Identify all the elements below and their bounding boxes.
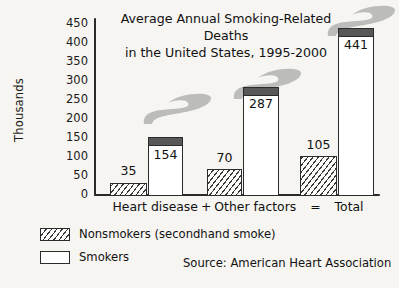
bar-cap: [148, 137, 184, 146]
bar-value-154: 154: [148, 148, 183, 161]
legend-label-nonsmokers: Nonsmokers (secondhand smoke): [79, 227, 276, 241]
bar-nonsmokers-total[interactable]: [300, 156, 337, 196]
bar-value-105: 105: [300, 138, 337, 151]
x-axis-label: Heart disease+Other factors=Total: [94, 199, 382, 214]
legend-swatch-white-icon: [40, 251, 70, 264]
bar-value-441: 441: [338, 38, 374, 51]
legend-label-smokers: Smokers: [79, 250, 129, 264]
bar-nonsmokers-heart-disease[interactable]: [110, 183, 147, 196]
bar-cap: [338, 28, 375, 37]
chart-source: Source: American Heart Association: [183, 256, 391, 270]
bar-value-287: 287: [243, 97, 279, 110]
legend-swatch-hatched-icon: [40, 228, 70, 241]
x-axis-equals-operator: =: [310, 199, 320, 214]
bars-layer: 35 154 70 287 105 441: [0, 0, 388, 196]
bar-cap: [243, 87, 280, 96]
bar-nonsmokers-other-factors[interactable]: [207, 169, 242, 196]
x-axis-part-total: Total: [335, 199, 364, 214]
legend-item-nonsmokers[interactable]: Nonsmokers (secondhand smoke): [40, 225, 276, 243]
bar-smokers-total[interactable]: [338, 28, 374, 196]
bar-value-35: 35: [110, 164, 147, 177]
bar-value-70: 70: [207, 151, 242, 164]
x-axis-part-other-factors: Other factors: [214, 199, 296, 214]
x-axis-plus-operator: +: [198, 199, 214, 214]
x-axis-part-heart-disease: Heart disease: [112, 199, 197, 214]
